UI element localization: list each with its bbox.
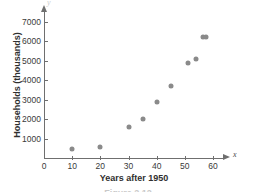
x-axis-tick-label: 10 — [67, 161, 76, 171]
x-axis-tick — [157, 156, 158, 160]
scatter-plot-figure: 1000200030004000500060007000 x y 0102030… — [0, 0, 256, 192]
y-axis-tick — [44, 100, 48, 101]
y-axis-tick-label: 4000 — [22, 75, 41, 85]
figure-caption: Figure 2.12 — [0, 188, 256, 192]
y-axis-tick-label: 5000 — [22, 56, 41, 66]
x-axis-tick — [129, 156, 130, 160]
data-point — [203, 34, 208, 39]
y-axis-line — [44, 12, 45, 158]
x-axis-tick-label: 50 — [180, 161, 189, 171]
x-axis-tick — [100, 156, 101, 160]
x-axis-tick-label: 0 — [42, 161, 47, 171]
y-axis-tick — [44, 22, 48, 23]
x-axis-tick-label: 40 — [152, 161, 161, 171]
data-point — [154, 99, 159, 104]
y-axis-arrow-icon — [41, 5, 47, 12]
y-axis-tick — [44, 61, 48, 62]
x-axis-arrow-icon — [223, 154, 230, 160]
x-axis-tick — [185, 156, 186, 160]
x-axis-title: Years after 1950 — [44, 173, 224, 183]
data-point — [98, 145, 103, 150]
data-point — [140, 117, 145, 122]
data-point — [70, 147, 75, 152]
data-point — [168, 84, 173, 89]
y-axis-tick — [44, 139, 48, 140]
x-axis-tick-label: 60 — [208, 161, 217, 171]
x-axis-line — [44, 158, 224, 159]
x-axis-tick — [72, 156, 73, 160]
data-point — [201, 34, 206, 39]
data-point — [126, 124, 131, 129]
y-axis-tick-label: 1000 — [22, 134, 41, 144]
y-axis-tick-label: 7000 — [22, 17, 41, 27]
y-axis-tick — [44, 41, 48, 42]
data-point — [185, 60, 190, 65]
x-axis-variable-label: x — [233, 150, 237, 159]
y-axis-tick — [44, 80, 48, 81]
x-axis-tick-label: 20 — [96, 161, 105, 171]
x-axis-tick-label: 30 — [124, 161, 133, 171]
data-point — [194, 56, 199, 61]
y-axis-title: Households (thousands) — [12, 20, 22, 150]
y-axis-tick-label: 2000 — [22, 114, 41, 124]
y-axis-tick-label: 3000 — [22, 95, 41, 105]
y-axis-variable-label: y — [47, 0, 51, 7]
x-axis-tick — [213, 156, 214, 160]
y-axis-tick — [44, 119, 48, 120]
y-axis-tick-label: 6000 — [22, 36, 41, 46]
